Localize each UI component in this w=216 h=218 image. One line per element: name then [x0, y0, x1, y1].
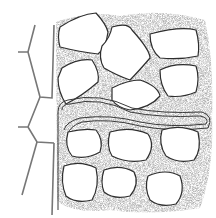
cell-diagram — [0, 0, 216, 218]
cell — [102, 167, 136, 197]
cell — [108, 129, 151, 161]
cell — [150, 29, 199, 59]
cell — [62, 163, 97, 201]
cell — [146, 172, 182, 205]
diagram-canvas — [0, 0, 216, 218]
cell — [161, 127, 200, 161]
adjoining-tissue-walls — [18, 25, 54, 215]
cell — [67, 129, 102, 157]
cell — [160, 65, 198, 97]
